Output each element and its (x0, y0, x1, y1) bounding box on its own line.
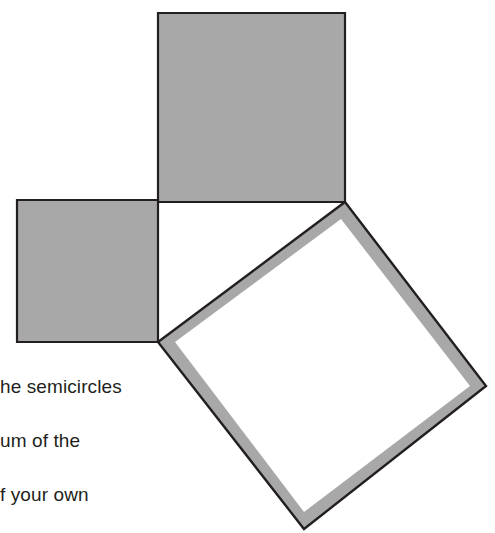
upper-square (158, 13, 345, 202)
caption-line-3: f your own (0, 468, 260, 522)
left-square (17, 200, 158, 342)
caption-line-1: he semicircles (0, 360, 260, 414)
caption-block: he semicircles um of the f your own (0, 360, 260, 522)
figure-page: he semicircles um of the f your own (0, 0, 495, 533)
caption-line-2: um of the (0, 414, 260, 468)
